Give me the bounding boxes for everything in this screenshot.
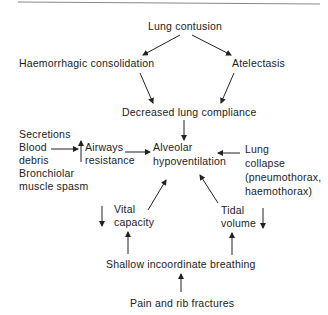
node-decreased-compliance: Decreased lung compliance	[122, 106, 257, 119]
cause-bronchiolar: Bronchiolar	[19, 167, 74, 180]
node-alveolar-line2: hypoventilation	[153, 155, 226, 168]
collapse-line4: haemothorax)	[245, 185, 312, 198]
node-pain-rib-fractures: Pain and rib fractures	[130, 297, 234, 310]
cause-debris: debris	[19, 154, 49, 167]
top-rule	[18, 2, 320, 4]
collapse-line1: Lung	[245, 143, 269, 156]
node-lung-contusion: Lung contusion	[148, 20, 222, 33]
cause-muscle-spasm: muscle spasm	[19, 180, 89, 193]
node-airways-line2: resistance	[85, 154, 135, 167]
collapse-line2: collapse	[245, 157, 285, 170]
cause-secretions: Secretions	[19, 128, 71, 141]
collapse-line3: (pneumothorax,	[245, 171, 321, 184]
node-haemorrhagic-consolidation: Haemorrhagic consolidation	[19, 57, 154, 70]
node-shallow-breathing: Shallow incoordinate breathing	[106, 258, 256, 271]
node-vital-line1: Vital	[114, 203, 135, 216]
node-alveolar-line1: Alveolar	[153, 141, 193, 154]
node-tidal-line1: Tidal	[221, 204, 244, 217]
node-tidal-line2: volume	[221, 217, 256, 230]
node-vital-line2: capacity	[114, 216, 154, 229]
lung-contusion-flow-diagram: Lung contusion Haemorrhagic consolidatio…	[0, 0, 328, 315]
cause-blood: Blood	[19, 141, 47, 154]
node-atelectasis: Atelectasis	[232, 57, 285, 70]
node-airways-line1: Airways	[85, 141, 123, 154]
